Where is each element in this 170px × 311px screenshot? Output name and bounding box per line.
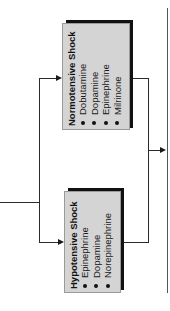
normotensive-drug-list: Dobutamine Dopamine Epinephrine Milrinon… bbox=[77, 28, 123, 126]
branch-to-hypotensive bbox=[39, 242, 59, 243]
normotensive-shock-title: Normotensive Shock bbox=[66, 28, 77, 126]
list-item: Epinephrine bbox=[79, 196, 91, 289]
bullet-icon bbox=[94, 284, 98, 288]
input-connector bbox=[0, 202, 40, 203]
list-item: Dobutamine bbox=[77, 28, 89, 126]
list-item: Dopamine bbox=[91, 196, 103, 289]
list-item: Epinephrine bbox=[100, 28, 112, 126]
left-branch-vertical bbox=[39, 78, 40, 243]
normotensive-output bbox=[133, 78, 149, 79]
bullet-icon bbox=[104, 121, 108, 125]
hypotensive-shock-box: Hypotensive Shock Epinephrine Dopamine N… bbox=[64, 191, 121, 293]
normotensive-shock-box: Normotensive Shock Dobutamine Dopamine E… bbox=[62, 23, 130, 130]
hypotensive-shock-title: Hypotensive Shock bbox=[68, 196, 79, 289]
bullet-icon bbox=[92, 121, 96, 125]
branch-to-normotensive bbox=[39, 78, 57, 79]
bullet-icon bbox=[83, 284, 87, 288]
right-merge-vertical bbox=[148, 78, 149, 243]
hypotensive-output bbox=[124, 242, 149, 243]
list-item: Dopamine bbox=[89, 28, 101, 126]
hypotensive-drug-list: Epinephrine Dopamine Norepinephrine bbox=[79, 196, 114, 289]
bullet-icon bbox=[115, 121, 119, 125]
bullet-icon bbox=[106, 284, 110, 288]
list-item: Milrinone bbox=[112, 28, 124, 126]
arrow-to-next-icon bbox=[160, 147, 166, 153]
bullet-icon bbox=[81, 121, 85, 125]
next-step-boundary bbox=[167, 8, 168, 293]
list-item: Norepinephrine bbox=[102, 196, 114, 289]
